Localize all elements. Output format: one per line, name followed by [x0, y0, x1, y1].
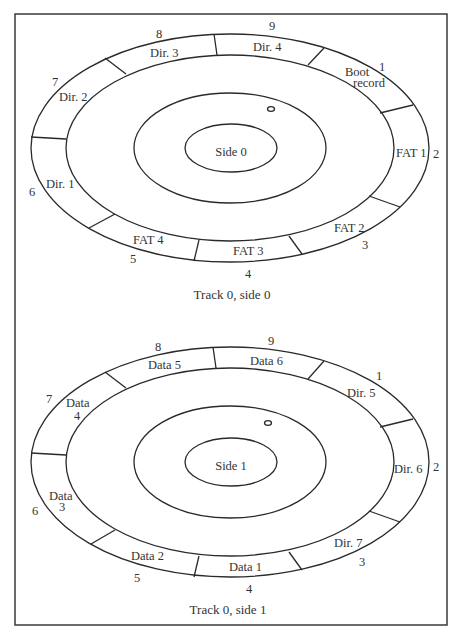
sector-number: 1 — [379, 60, 385, 74]
diagram-caption: Track 0, side 0 — [194, 287, 271, 302]
sector-divider — [214, 34, 217, 55]
sector-label: FAT 1 — [396, 146, 426, 160]
side-label: Side 0 — [215, 145, 247, 159]
sector-divider — [308, 48, 324, 65]
sector-divider — [380, 419, 413, 427]
sector-label: Data — [66, 396, 90, 410]
sector-divider — [289, 552, 302, 570]
sector-number: 5 — [130, 252, 136, 266]
sector-number: 6 — [29, 185, 35, 199]
sector-label: Data 6 — [250, 354, 283, 368]
sector-label: Dir. 6 — [394, 462, 422, 476]
sector-label: Dir. 1 — [46, 177, 74, 191]
sector-label: Dir. 7 — [334, 536, 362, 550]
sector-number: 1 — [376, 369, 382, 383]
sector-divider — [194, 240, 199, 261]
sector-label: 4 — [74, 409, 81, 423]
disk-diagram-side-1: Side 1 Dir. 5 Dir. 6 Dir. 7 Data 1 Data … — [31, 334, 439, 617]
sector-number: 4 — [245, 267, 252, 281]
diagram-caption: Track 0, side 1 — [190, 602, 267, 617]
sector-label: FAT 4 — [133, 233, 164, 247]
sector-divider — [105, 58, 126, 74]
sector-label: Dir. 5 — [347, 386, 375, 400]
sector-divider — [105, 372, 126, 388]
sector-divider — [31, 137, 66, 139]
sector-label: Data 1 — [229, 560, 262, 574]
sector-label: 3 — [59, 500, 65, 514]
sector-divider — [369, 196, 400, 207]
sector-divider — [380, 105, 413, 113]
figure-frame — [15, 14, 447, 625]
sector-label: FAT 2 — [334, 221, 364, 235]
sector-number: 8 — [156, 27, 162, 41]
sector-number: 6 — [32, 504, 38, 518]
sector-divider — [91, 530, 115, 544]
sector-number: 5 — [134, 571, 140, 585]
index-hole-icon — [265, 421, 272, 426]
sector-divider — [89, 214, 115, 228]
sector-label: Data 5 — [148, 358, 181, 372]
sector-label: Dir. 4 — [253, 40, 282, 54]
disk-diagram-side-0: Side 0 Boot record FAT 1 FAT 2 FAT 3 FAT… — [29, 19, 439, 302]
index-hole-icon — [268, 107, 275, 112]
sector-number: 9 — [268, 334, 274, 348]
sector-number: 2 — [433, 460, 439, 474]
sector-number: 7 — [52, 75, 58, 89]
sector-divider — [308, 361, 324, 379]
sector-label: Dir. 2 — [59, 90, 87, 104]
sector-label: record — [353, 76, 386, 90]
sector-divider — [31, 453, 66, 455]
side-label: Side 1 — [215, 459, 247, 473]
sector-number: 7 — [46, 392, 52, 406]
sector-label: Data 2 — [131, 549, 164, 563]
sector-divider — [289, 236, 302, 254]
disk-layout-figure: Side 0 Boot record FAT 1 FAT 2 FAT 3 FAT… — [0, 0, 463, 636]
sector-number: 4 — [246, 582, 253, 596]
sector-number: 2 — [433, 147, 439, 161]
sector-label: FAT 3 — [233, 244, 263, 258]
sector-divider — [194, 556, 199, 577]
sector-divider — [369, 511, 400, 522]
sector-number: 3 — [359, 555, 365, 569]
sector-number: 9 — [269, 19, 275, 33]
sector-divider — [213, 347, 216, 368]
sector-number: 3 — [362, 238, 368, 252]
sector-label: Dir. 3 — [150, 46, 178, 60]
sector-number: 8 — [155, 340, 161, 354]
